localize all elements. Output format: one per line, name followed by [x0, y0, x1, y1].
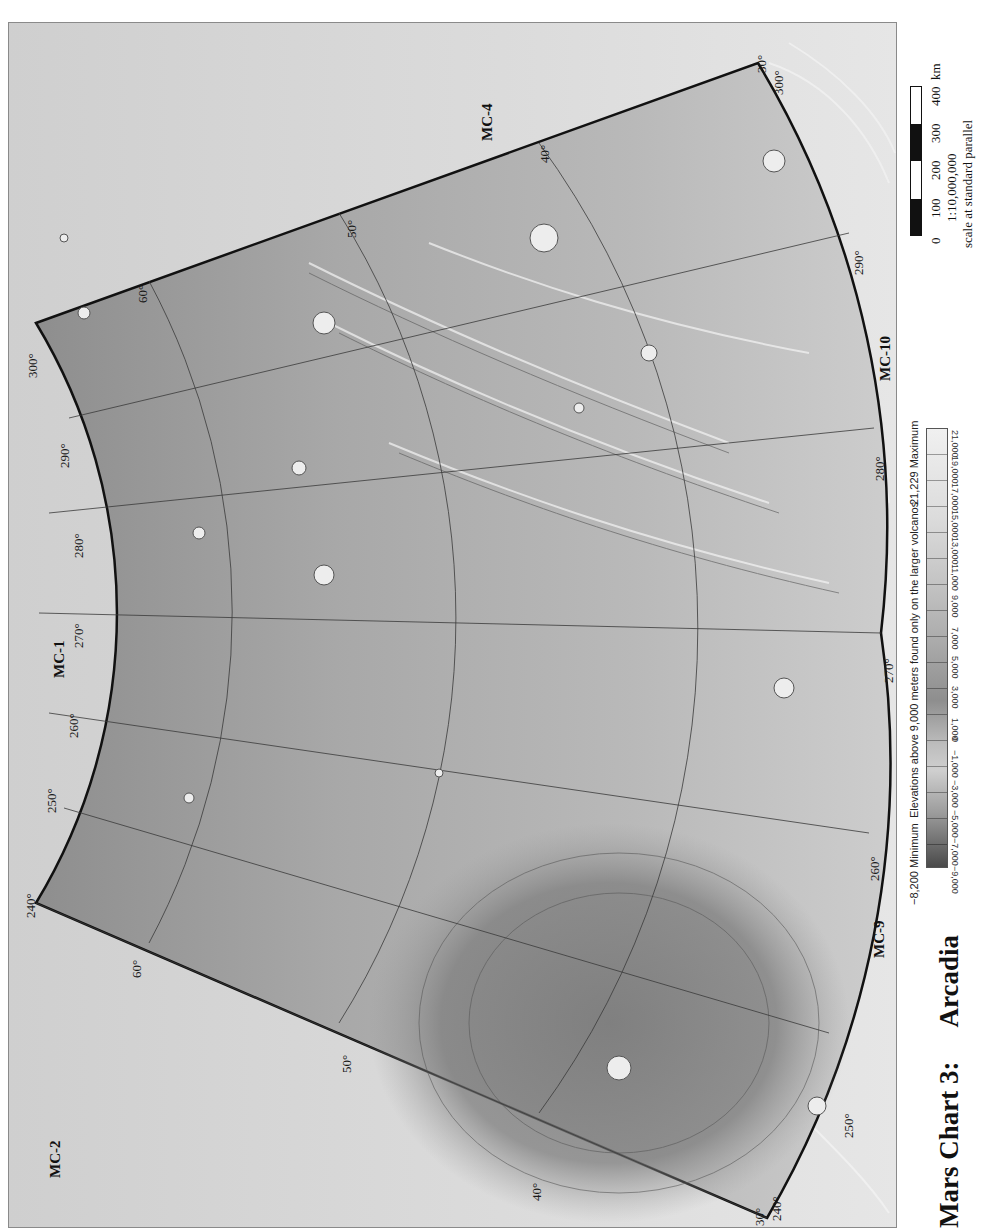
lon-label-250-outer: 250°	[841, 1113, 857, 1138]
scale-tick-200: 200	[928, 161, 944, 181]
scale-bar	[908, 86, 924, 236]
lat-label-50-top: 50°	[344, 220, 360, 238]
adjacent-chart-label-left: MC-1	[51, 641, 68, 679]
corner-lon-top-right: 300°	[771, 70, 787, 95]
legend-tick-5000: 5,000	[950, 656, 960, 679]
legend-tick-0: 0	[950, 737, 960, 742]
legend-tick-minus-1000: −1,000	[950, 750, 960, 778]
adjacent-chart-label-bottom-left: MC-2	[47, 1141, 64, 1179]
legend-tick-7000: 7,000	[950, 627, 960, 650]
legend-minimum: −8,200 Minimum	[908, 823, 920, 905]
lon-label-290-outer: 290°	[851, 250, 867, 275]
scale-ratio: 1:10,000,000	[944, 153, 960, 222]
lon-label-260-outer: 260°	[867, 856, 883, 881]
adjacent-chart-label-right-lower: MC-9	[871, 921, 888, 959]
scale-segment-200-300	[910, 124, 922, 161]
lon-label-300-inner: 300°	[25, 353, 41, 378]
lon-label-250-inner: 250°	[44, 788, 60, 813]
map-canvas	[9, 23, 896, 1227]
adjacent-chart-label-top: MC-4	[479, 104, 496, 142]
legend-tick-13000: 13,000	[950, 537, 960, 565]
lon-label-270-inner: 270°	[71, 623, 87, 648]
legend-tick-17000: 17,000	[950, 483, 960, 511]
legend-tick-3000: 3,000	[950, 686, 960, 709]
lat-label-60: 60°	[129, 960, 145, 978]
scale-tick-400: 400	[928, 87, 944, 107]
legend-tick-minus-9000: −9,000	[950, 866, 960, 894]
legend-tick-11000: 11,000	[950, 564, 960, 591]
chart-number: Mars Chart 3:	[934, 1062, 964, 1228]
scale-tick-300: 300	[928, 124, 944, 144]
corner-lat-bottom-right: 30°	[752, 1208, 768, 1226]
corner-lon-bottom-right: 240°	[769, 1196, 785, 1221]
map-frame[interactable]: MC-4 MC-1 MC-2 MC-10 MC-9 240° 250° 260°…	[8, 22, 897, 1228]
legend-tick-15000: 15,000	[950, 510, 960, 538]
legend-tick-19000: 19,000	[950, 456, 960, 484]
elevation-color-ramp	[926, 428, 948, 868]
lon-label-280-outer: 280°	[872, 456, 888, 481]
legend-note: Elevations above 9,000 meters found only…	[908, 502, 920, 818]
scale-note: scale at standard parallel	[960, 120, 976, 248]
scale-unit: km	[928, 63, 944, 80]
corner-lat-top-right: 30°	[754, 55, 770, 73]
legend-maximum: 21,229 Maximum	[908, 421, 920, 505]
chart-name: Arcadia	[934, 935, 964, 1028]
legend-tick-minus-5000: −5,000	[950, 810, 960, 838]
volcano-dome	[369, 823, 849, 1223]
scale-tick-100: 100	[928, 199, 944, 219]
chart-title: Mars Chart 3: Arcadia	[934, 935, 965, 1228]
scale-segment-0-100	[910, 199, 922, 236]
lon-label-240-inner: 240°	[23, 893, 39, 918]
lat-label-40-top: 40°	[537, 145, 553, 163]
lat-label-40: 40°	[529, 1183, 545, 1201]
scale-tick-0: 0	[928, 238, 944, 245]
legend-tick-21000: 21,000	[950, 430, 960, 458]
lat-label-60-top: 60°	[135, 285, 151, 303]
legend-tick-minus-7000: −7,000	[950, 838, 960, 866]
lon-label-290-inner: 290°	[57, 443, 73, 468]
legend-tick-9000: 9,000	[950, 595, 960, 618]
lon-label-270-outer: 270°	[881, 658, 897, 683]
legend-tick-minus-3000: −3,000	[950, 780, 960, 808]
lat-label-50: 50°	[339, 1055, 355, 1073]
lon-label-260-inner: 260°	[66, 713, 82, 738]
adjacent-chart-label-right-upper: MC-10	[877, 336, 894, 381]
lon-label-280-inner: 280°	[71, 533, 87, 558]
